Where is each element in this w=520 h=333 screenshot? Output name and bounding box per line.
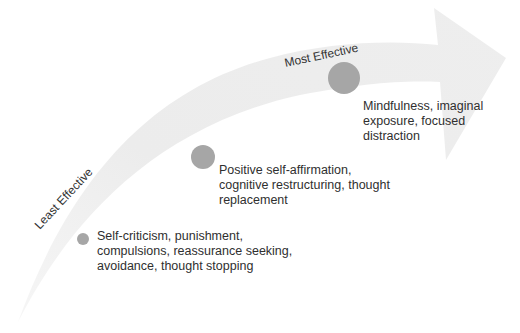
stage-low-marker: [77, 233, 89, 245]
effectiveness-diagram: Least Effective Most Effective Self-crit…: [0, 0, 520, 333]
stage-medium-marker: [191, 145, 215, 169]
stage-medium-text: Positive self-affirmation, cognitive res…: [219, 163, 390, 208]
stage-medium-line-1: Positive self-affirmation,: [219, 163, 390, 178]
stage-medium-line-2: cognitive restructuring, thought: [219, 178, 390, 193]
stage-medium-line-3: replacement: [219, 193, 390, 208]
stage-low-line-2: compulsions, reassurance seeking,: [97, 244, 292, 259]
stage-low-text: Self-criticism, punishment, compulsions,…: [97, 229, 292, 274]
stage-high-text: Mindfulness, imaginal exposure, focused …: [363, 99, 483, 144]
stage-low-line-3: avoidance, thought stopping: [97, 259, 292, 274]
stage-high-line-3: distraction: [363, 129, 483, 144]
stage-high-line-2: exposure, focused: [363, 114, 483, 129]
stage-high-line-1: Mindfulness, imaginal: [363, 99, 483, 114]
stage-high-marker: [328, 62, 360, 94]
stage-low-line-1: Self-criticism, punishment,: [97, 229, 292, 244]
